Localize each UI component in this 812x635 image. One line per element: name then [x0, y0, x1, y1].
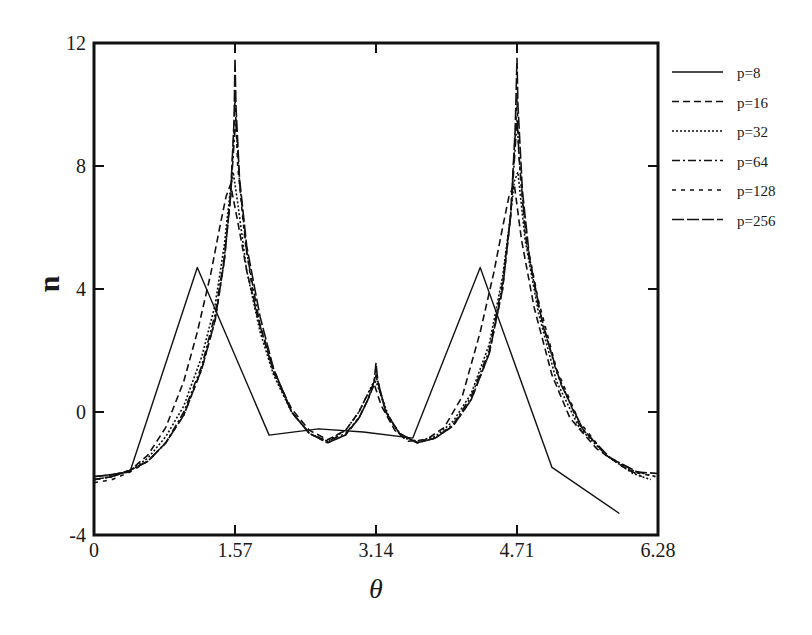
- legend-label: p=16: [737, 95, 768, 111]
- legend-label: p=64: [737, 154, 768, 170]
- x-tick-label: 4.71: [500, 539, 535, 561]
- y-tick-label: 8: [76, 155, 86, 177]
- y-tick-label: 4: [76, 278, 86, 300]
- legend-label: p=32: [737, 124, 768, 140]
- plot-frame: [94, 43, 658, 535]
- legend-label: p=256: [737, 213, 776, 229]
- x-tick-label: 6.28: [641, 539, 676, 561]
- series-line-p-64: [94, 120, 655, 480]
- y-tick-label: -4: [69, 524, 86, 546]
- legend: p=8p=16p=32p=64p=128p=256: [672, 65, 776, 229]
- plot-area: [94, 43, 658, 535]
- x-tick-label: 3.14: [359, 539, 394, 561]
- y-tick-label: 0: [76, 401, 86, 423]
- y-tick-label: 12: [66, 32, 86, 54]
- x-tick-label: 0: [89, 539, 99, 561]
- axis-ticks: [94, 43, 658, 535]
- series-line-p-128: [94, 98, 655, 482]
- legend-label: p=8: [737, 65, 760, 81]
- legend-label: p=128: [737, 183, 775, 199]
- series-layer: [94, 58, 658, 513]
- y-axis-title: u: [39, 276, 72, 293]
- x-axis-title: θ: [369, 573, 383, 604]
- series-line-p-8: [94, 268, 619, 514]
- chart: -404812 01.573.144.716.28 u θ p=8p=16p=3…: [0, 0, 812, 635]
- x-axis-tick-labels: 01.573.144.716.28: [89, 539, 676, 561]
- x-tick-label: 1.57: [218, 539, 253, 561]
